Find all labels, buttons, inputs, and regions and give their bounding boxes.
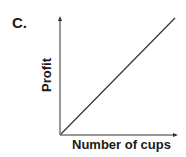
y-axis-label: Profit <box>39 58 54 92</box>
line-chart <box>0 0 186 157</box>
x-axis-label: Number of cups <box>72 137 171 152</box>
profit-line <box>61 18 175 134</box>
